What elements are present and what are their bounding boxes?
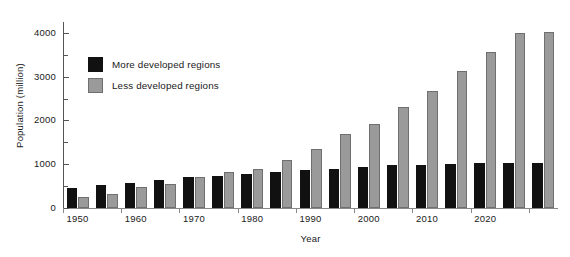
x-axis-title: Year bbox=[63, 233, 558, 244]
x-axis-tick bbox=[354, 209, 355, 213]
bar-more-developed bbox=[125, 183, 136, 208]
bar-more-developed bbox=[154, 180, 165, 208]
x-axis-tick-label: 2020 bbox=[465, 214, 505, 224]
bar-less-developed bbox=[311, 149, 322, 208]
bar-more-developed bbox=[474, 163, 485, 208]
bar-more-developed bbox=[503, 163, 514, 208]
chart-legend: More developed regions Less developed re… bbox=[88, 57, 220, 99]
legend-item-more-developed: More developed regions bbox=[88, 57, 220, 72]
bar-less-developed bbox=[195, 177, 206, 208]
x-axis-tick-label: 1960 bbox=[116, 214, 156, 224]
x-axis-tick bbox=[238, 209, 239, 213]
bar-less-developed bbox=[544, 32, 555, 208]
x-axis-tick-label: 1970 bbox=[174, 214, 214, 224]
x-axis-tick bbox=[296, 209, 297, 213]
x-axis-tick-label: 2010 bbox=[407, 214, 447, 224]
bar-more-developed bbox=[241, 174, 252, 208]
bar-more-developed bbox=[183, 177, 194, 208]
bar-less-developed bbox=[486, 52, 497, 208]
gray-square-swatch-icon bbox=[88, 78, 103, 93]
legend-item-label: More developed regions bbox=[112, 60, 220, 70]
bar-less-developed bbox=[107, 194, 118, 208]
black-square-swatch-icon bbox=[88, 57, 103, 72]
bar-more-developed bbox=[300, 170, 311, 208]
bar-less-developed bbox=[78, 197, 89, 208]
bar-more-developed bbox=[387, 165, 398, 208]
bar-more-developed bbox=[96, 185, 107, 208]
x-axis-tick-label: 1990 bbox=[291, 214, 331, 224]
bar-less-developed bbox=[340, 134, 351, 208]
x-axis-tick bbox=[63, 209, 64, 213]
bar-more-developed bbox=[416, 165, 427, 208]
bar-less-developed bbox=[457, 71, 468, 208]
y-axis-tick-label: 0 bbox=[14, 203, 56, 213]
x-axis-tick bbox=[529, 209, 530, 213]
x-axis-tick bbox=[121, 209, 122, 213]
bar-more-developed bbox=[67, 188, 78, 208]
bar-less-developed bbox=[165, 184, 176, 208]
x-axis-tick-label: 1980 bbox=[232, 214, 272, 224]
x-axis-tick-label: 2000 bbox=[349, 214, 389, 224]
population-bar-chart: 01000200030004000 1950196019701980199020… bbox=[0, 0, 570, 257]
bar-more-developed bbox=[329, 169, 340, 208]
legend-item-label: Less developed regions bbox=[112, 81, 219, 91]
bar-more-developed bbox=[270, 172, 281, 208]
bar-more-developed bbox=[212, 176, 223, 208]
x-axis-tick-label: 1950 bbox=[58, 214, 98, 224]
bar-less-developed bbox=[253, 169, 264, 208]
x-axis-tick bbox=[179, 209, 180, 213]
bar-less-developed bbox=[398, 107, 409, 208]
bar-more-developed bbox=[358, 167, 369, 208]
bar-less-developed bbox=[427, 91, 438, 208]
bar-less-developed bbox=[224, 172, 235, 208]
y-axis-tick-major bbox=[64, 208, 69, 209]
bar-more-developed bbox=[532, 163, 543, 208]
bar-more-developed bbox=[445, 164, 456, 208]
plot-area bbox=[63, 22, 558, 208]
y-axis-title: Population (million) bbox=[14, 31, 25, 181]
x-axis-tick bbox=[412, 209, 413, 213]
x-axis-line bbox=[63, 208, 558, 209]
bar-less-developed bbox=[369, 124, 380, 208]
bar-less-developed bbox=[515, 33, 526, 208]
bar-less-developed bbox=[282, 160, 293, 208]
legend-item-less-developed: Less developed regions bbox=[88, 78, 220, 93]
bar-less-developed bbox=[136, 187, 147, 208]
x-axis-tick bbox=[471, 209, 472, 213]
